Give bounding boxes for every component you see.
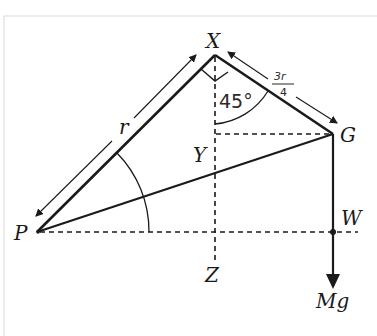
label-P: P bbox=[13, 221, 28, 245]
label-W: W bbox=[341, 206, 363, 230]
label-Z: Z bbox=[204, 263, 220, 287]
point-W-dot bbox=[330, 229, 336, 235]
dimension-arrow-r-lower bbox=[36, 141, 112, 216]
rod-PX bbox=[37, 55, 215, 232]
dimension-arrow-3r4-lower bbox=[296, 97, 337, 123]
weight-arrowhead bbox=[326, 274, 340, 289]
dimension-arrow-3r4-upper bbox=[228, 52, 268, 79]
label-Mg: Mg bbox=[315, 289, 349, 313]
frame-border bbox=[4, 16, 377, 336]
label-X: X bbox=[204, 29, 221, 53]
label-4-denominator: 4 bbox=[280, 86, 287, 99]
label-r: r bbox=[119, 115, 130, 139]
dimension-arrow-r-upper bbox=[134, 55, 196, 118]
line-PG bbox=[37, 134, 333, 232]
angle-arc-P bbox=[117, 153, 149, 232]
pendulum-diagram: X G Y Z P W r 45° 3r 4 Mg bbox=[0, 0, 377, 336]
point-P-dot bbox=[36, 230, 40, 234]
label-angle-45: 45° bbox=[219, 90, 253, 112]
label-3r-numerator: 3r bbox=[274, 70, 287, 83]
label-Y: Y bbox=[193, 143, 208, 167]
label-G: G bbox=[340, 123, 356, 147]
